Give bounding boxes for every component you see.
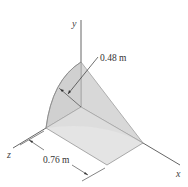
length-arrow-icon-2: [84, 172, 88, 175]
x-axis: [143, 143, 180, 165]
length-ext-2: [82, 168, 105, 181]
length-label: 0.76 m: [43, 155, 70, 165]
radius-label: 0.48 m: [100, 53, 127, 63]
quarter-cylinder-diagram: y x z 0.48 m 0.76 m: [0, 0, 188, 187]
z-axis: [13, 128, 46, 148]
z-axis-label: z: [6, 149, 11, 160]
y-axis-label: y: [71, 18, 77, 29]
x-axis-label: x: [175, 168, 181, 179]
